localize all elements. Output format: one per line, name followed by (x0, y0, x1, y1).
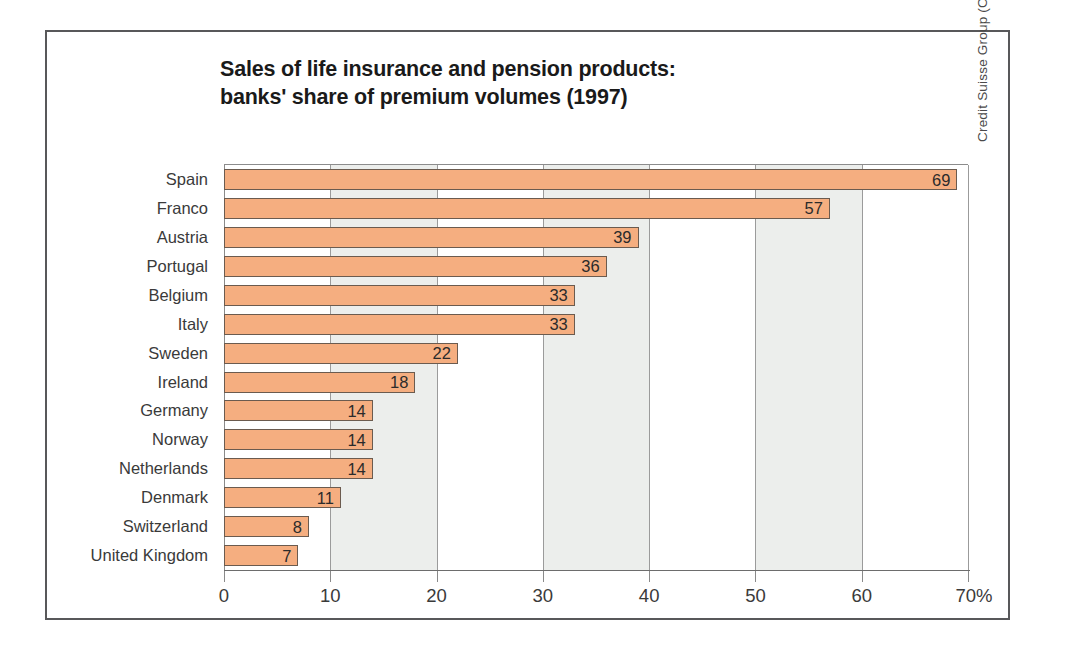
bar-row: 14 (224, 454, 968, 483)
x-tick-mark (224, 571, 225, 582)
category-label: Netherlands (47, 454, 215, 483)
x-tick-label: 60 (851, 585, 872, 607)
x-tick-mark (755, 571, 756, 582)
category-label: Portugal (47, 252, 215, 281)
x-tick-mark (543, 571, 544, 582)
category-label: Germany (47, 396, 215, 425)
bar: 8 (224, 516, 309, 537)
bar: 57 (224, 198, 830, 219)
bar-row: 14 (224, 396, 968, 425)
chart-title: Sales of life insurance and pension prod… (220, 55, 860, 112)
bar: 39 (224, 227, 639, 248)
bar-value-label: 11 (317, 489, 334, 506)
bar: 14 (224, 400, 373, 421)
bar: 33 (224, 285, 575, 306)
bar-value-label: 14 (347, 403, 365, 420)
category-axis-labels: SpainFrancoAustriaPortugalBelgiumItalySw… (47, 165, 215, 570)
bar-value-label: 57 (804, 200, 822, 217)
bar-value-label: 69 (932, 171, 950, 188)
bar-row: 69 (224, 165, 968, 194)
bar-row: 33 (224, 281, 968, 310)
bar: 36 (224, 256, 607, 277)
x-tick-label: 30 (533, 585, 554, 607)
bar: 33 (224, 314, 575, 335)
category-label: Switzerland (47, 512, 215, 541)
bar-value-label: 14 (347, 432, 365, 449)
bar-row: 11 (224, 483, 968, 512)
x-tick-label: 20 (426, 585, 447, 607)
bar: 14 (224, 429, 373, 450)
bar: 14 (224, 458, 373, 479)
category-label: Spain (47, 165, 215, 194)
x-tick-mark (437, 571, 438, 582)
bar: 11 (224, 487, 341, 508)
chart-figure-frame: Sales of life insurance and pension prod… (45, 30, 1010, 620)
bar-series: 69573936333322181414141187 (224, 165, 968, 570)
category-label: Sweden (47, 339, 215, 368)
bar: 69 (224, 169, 957, 190)
bar-value-label: 39 (613, 229, 631, 246)
plot-area: 69573936333322181414141187 (224, 165, 968, 570)
bar-row: 57 (224, 194, 968, 223)
bar-row: 36 (224, 252, 968, 281)
x-tick-label: 50 (745, 585, 766, 607)
category-label: Austria (47, 223, 215, 252)
bar: 7 (224, 545, 298, 566)
x-tick-mark (649, 571, 650, 582)
bar: 22 (224, 343, 458, 364)
x-axis-line (224, 570, 970, 571)
bar-row: 33 (224, 310, 968, 339)
bar-row: 22 (224, 339, 968, 368)
x-tick-label: 10 (320, 585, 341, 607)
x-tick-label: 0 (219, 585, 229, 607)
x-tick-label: 70% (955, 585, 992, 607)
category-label: Franco (47, 194, 215, 223)
category-label: Denmark (47, 483, 215, 512)
x-tick-mark (862, 571, 863, 582)
bar-row: 8 (224, 512, 968, 541)
category-label: United Kingdom (47, 541, 215, 570)
bar-value-label: 22 (432, 345, 450, 362)
category-label: Belgium (47, 281, 215, 310)
chart-title-line-1: Sales of life insurance and pension prod… (220, 55, 860, 83)
bar-value-label: 14 (347, 461, 365, 478)
bar-row: 18 (224, 368, 968, 397)
x-tick-mark (968, 571, 969, 582)
x-tick-label: 40 (639, 585, 660, 607)
chart-title-line-2: banks' share of premium volumes (1997) (220, 83, 860, 111)
category-label: Ireland (47, 368, 215, 397)
bar-row: 39 (224, 223, 968, 252)
credit-text: Credit Suisse Group (Corporate History a… (975, 0, 990, 142)
category-label: Italy (47, 310, 215, 339)
bar-value-label: 18 (390, 374, 408, 391)
category-label: Norway (47, 425, 215, 454)
bar-value-label: 33 (549, 316, 567, 333)
bar-value-label: 7 (282, 547, 291, 564)
bar-value-label: 8 (293, 518, 302, 535)
bar-row: 7 (224, 541, 968, 570)
bar: 18 (224, 372, 415, 393)
bar-value-label: 33 (549, 287, 567, 304)
gridline (968, 165, 969, 570)
x-tick-mark (330, 571, 331, 582)
bar-value-label: 36 (581, 258, 599, 275)
bar-row: 14 (224, 425, 968, 454)
